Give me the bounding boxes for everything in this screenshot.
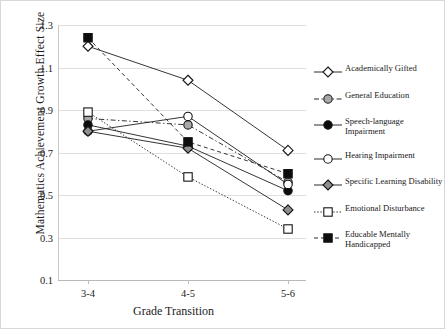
x-tick-label: 4-5 — [181, 288, 195, 299]
y-tick-label: 0.9 — [40, 105, 53, 116]
legend-item[interactable]: Educable Mentally Handicapped — [313, 229, 443, 249]
legend-label: Specific Learning Disability — [343, 176, 442, 186]
plot-area: 0.10.30.50.70.91.11.3 3-44-55-6 — [58, 25, 306, 280]
legend-label: General Education — [343, 90, 409, 100]
legend-item[interactable]: Emotional Disturbance — [313, 203, 443, 216]
legend-marker-icon — [313, 91, 343, 103]
data-point-marker — [183, 75, 193, 85]
y-tick-label: 1.3 — [40, 20, 53, 31]
data-point-marker — [324, 155, 332, 163]
legend-item[interactable]: Hearing Impairment — [313, 150, 443, 163]
data-point-marker — [284, 170, 292, 178]
legend: Academically GiftedGeneral EducationSpee… — [313, 63, 443, 263]
data-point-marker — [84, 108, 92, 116]
chart-figure: Mathematics Achievement Growth Effect Si… — [0, 0, 445, 329]
data-point-marker — [283, 205, 293, 215]
data-point-marker — [323, 67, 333, 77]
legend-item[interactable]: General Education — [313, 90, 443, 103]
x-axis-title: Grade Transition — [41, 304, 306, 319]
x-tick-mark — [288, 280, 289, 284]
data-point-marker — [324, 234, 332, 242]
data-point-marker — [324, 121, 332, 129]
data-point-marker — [184, 121, 192, 129]
legend-item[interactable]: Speech-language Impairment — [313, 116, 443, 136]
data-point-marker — [324, 208, 332, 216]
data-point-marker — [84, 34, 92, 42]
legend-marker-icon — [313, 177, 343, 189]
data-point-marker — [284, 225, 292, 233]
legend-label: Hearing Impairment — [343, 150, 415, 160]
data-point-marker — [284, 180, 292, 188]
data-point-marker — [83, 41, 93, 51]
data-point-marker — [323, 180, 333, 190]
legend-label: Educable Mentally Handicapped — [343, 229, 443, 249]
legend-marker-icon — [313, 204, 343, 216]
y-tick-label: 0.1 — [40, 275, 53, 286]
legend-item[interactable]: Specific Learning Disability — [313, 176, 443, 189]
legend-label: Academically Gifted — [343, 63, 417, 73]
y-tick-label: 0.3 — [40, 232, 53, 243]
y-tick-label: 0.7 — [40, 147, 53, 158]
series-line — [88, 46, 288, 150]
y-tick-label: 1.1 — [40, 62, 53, 73]
y-tick-label: 0.5 — [40, 190, 53, 201]
data-point-marker — [184, 112, 192, 120]
x-tick-mark — [88, 280, 89, 284]
legend-marker-icon — [313, 117, 343, 129]
legend-label: Emotional Disturbance — [343, 203, 424, 213]
x-axis-line — [58, 280, 306, 281]
legend-marker-icon — [313, 64, 343, 76]
x-tick-label: 3-4 — [81, 288, 95, 299]
series-layer — [58, 25, 306, 280]
data-point-marker — [324, 94, 332, 102]
y-axis-title: Mathematics Achievement Growth Effect Si… — [34, 0, 46, 258]
data-point-marker — [184, 138, 192, 146]
data-point-marker — [283, 145, 293, 155]
legend-label: Speech-language Impairment — [343, 116, 443, 136]
legend-marker-icon — [313, 151, 343, 163]
legend-marker-icon — [313, 230, 343, 242]
data-point-marker — [184, 173, 192, 181]
x-tick-mark — [188, 280, 189, 284]
legend-item[interactable]: Academically Gifted — [313, 63, 443, 76]
x-tick-label: 5-6 — [281, 288, 295, 299]
